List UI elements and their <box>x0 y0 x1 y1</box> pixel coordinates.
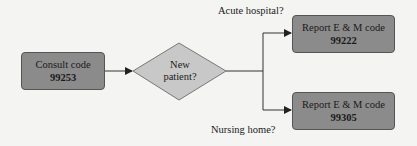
decision-text: New patient? <box>150 59 210 83</box>
consult-code: 99253 <box>50 71 76 84</box>
acute-code-box: Report E & M code 99222 <box>292 15 395 53</box>
decision-line2: patient? <box>150 71 210 83</box>
acute-label: Report E & M code <box>302 21 385 34</box>
decision-line1: New <box>150 59 210 71</box>
nursing-code-box: Report E & M code 99305 <box>292 92 395 130</box>
nursing-code: 99305 <box>330 111 356 124</box>
acute-code: 99222 <box>330 34 356 47</box>
consult-code-box: Consult code 99253 <box>21 52 105 90</box>
consult-label: Consult code <box>35 58 90 71</box>
edge-label-acute: Acute hospital? <box>218 5 284 16</box>
edge-label-nursing: Nursing home? <box>211 124 275 135</box>
nursing-label: Report E & M code <box>302 98 385 111</box>
